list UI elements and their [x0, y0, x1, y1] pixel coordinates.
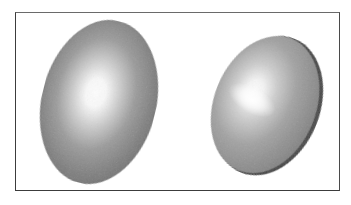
left-ellipsoid [24, 8, 175, 197]
figure-canvas [0, 0, 351, 205]
